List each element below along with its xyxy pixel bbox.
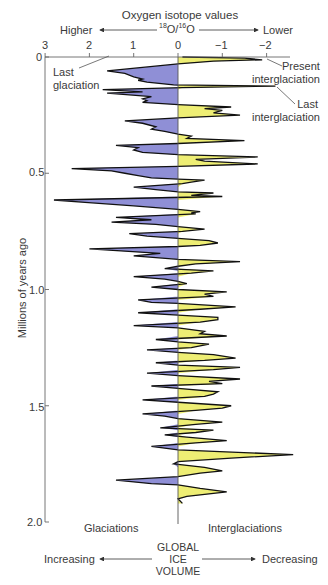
increasing-label: Increasing	[44, 553, 95, 565]
interglaciations-label: Interglaciations	[208, 522, 282, 534]
glaciation-area	[54, 57, 178, 503]
decreasing-label: Decreasing	[262, 553, 318, 565]
last-interglaciation-label: Lastinterglaciation	[252, 98, 318, 124]
isotope-chart	[0, 0, 328, 585]
global-ice-volume-label: GLOBALICEVOLUME	[150, 541, 206, 577]
present-interglaciation-label: Presentinterglaciation	[252, 60, 320, 86]
glaciations-label: Glaciations	[84, 522, 138, 534]
last-glaciation-label: Lastglaciation	[53, 66, 99, 92]
